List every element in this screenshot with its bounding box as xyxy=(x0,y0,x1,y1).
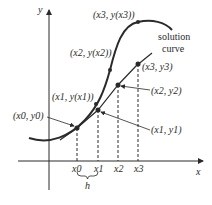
tick-x3: x3 xyxy=(134,164,143,174)
label-x3-true: (x3, y(x3)) xyxy=(93,10,135,20)
point-x1-true xyxy=(94,102,98,106)
point-x1-y1 xyxy=(96,108,101,113)
x-axis-label: x xyxy=(196,167,200,177)
point-x2-y2 xyxy=(116,83,121,88)
leader-x1-y1 xyxy=(101,112,150,130)
point-x3-y3 xyxy=(136,62,141,67)
step-label-h: h xyxy=(85,181,90,191)
tick-x1: x1 xyxy=(94,164,103,174)
label-x0-y0: (x0, y0) xyxy=(13,111,44,121)
point-x2-true xyxy=(108,68,112,72)
label-x3-y3: (x3, y3) xyxy=(142,62,173,72)
label-x2-true: (x2, y(x2)) xyxy=(70,48,112,58)
tick-x0: x0 xyxy=(72,164,81,174)
curve-label-2: curve xyxy=(162,44,184,54)
label-x1-true: (x1, y(x1)) xyxy=(52,92,94,102)
point-x3-true xyxy=(136,20,140,24)
leader-x2-y2 xyxy=(121,86,150,90)
point-x0-y0 xyxy=(75,126,80,131)
solution-curve xyxy=(29,21,172,141)
y-axis-label: y xyxy=(38,5,42,15)
label-x2-y2: (x2, y2) xyxy=(151,86,182,96)
tick-x2: x2 xyxy=(114,164,123,174)
curve-label-1: solution xyxy=(158,32,190,42)
label-x1-y1: (x1, y1) xyxy=(151,125,182,135)
leader-x0-y0 xyxy=(47,117,74,126)
euler-method-diagram: y x solution curve (x3, y(x3)) (x2, y(x2… xyxy=(0,0,212,205)
